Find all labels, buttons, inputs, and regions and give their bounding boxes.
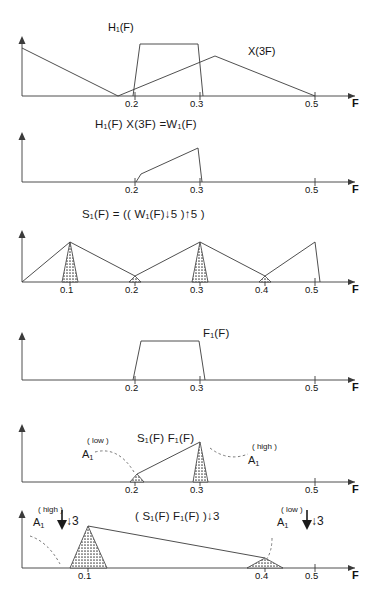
tick-label-0.2: 0.2: [125, 98, 138, 109]
shaded-peak-0.2: [129, 276, 141, 282]
tick-label-0.5: 0.5: [305, 98, 318, 109]
y-axis-arrow: [19, 36, 26, 44]
shaded-peak-high-0.1: [70, 526, 107, 568]
a1-high-sub: 1: [255, 459, 259, 468]
a1-low-down3-sub: 1: [284, 521, 288, 530]
a1-low-sub: 1: [89, 453, 93, 462]
tick-label-0.3: 0.3: [190, 98, 203, 109]
tick-label-0.5: 0.5: [305, 484, 318, 495]
tick-label-0.2: 0.2: [125, 382, 138, 393]
panel-6-s1f1-down3: ( S₁(F) F₁(F) )↓3 ( high )A1 ↓3 ( low )A…: [0, 502, 379, 602]
a1-low-sup: ( low ): [87, 436, 109, 445]
panel-1-h1-x3f: H₁(F) X(3F) 0.2 0.3 0.5 F: [0, 18, 379, 110]
panel-5-s1f1: S₁(F) F₁(F) ( low )A1 ( high )A1 0.2 0.3…: [0, 404, 379, 500]
panel-2-title: H₁(F) X(3F) =W₁(F): [95, 118, 197, 130]
shaded-peak-high-0.3: [193, 442, 208, 482]
leader-low: [266, 538, 272, 560]
leader-high: [210, 448, 248, 457]
tick-label-0.3: 0.3: [190, 284, 203, 295]
x3f-label: X(3F): [248, 45, 276, 57]
panel-2-w1: H₁(F) X(3F) =W₁(F) 0.2 0.3 0.5 F: [0, 116, 379, 198]
axis-label-F: F: [352, 283, 359, 295]
annotation-a1-high: ( high )A1: [248, 454, 260, 468]
panel-3-s1: S₁(F) = (( W₁(F)↓5 )↑5 ) 0.1 0.2 0.3 0.4…: [0, 206, 379, 298]
tick-label-0.1: 0.1: [60, 284, 73, 295]
tick-label-0.3: 0.3: [190, 184, 203, 195]
tick-label-0.2: 0.2: [125, 184, 138, 195]
tick-label-0.3: 0.3: [190, 484, 203, 495]
f1-trapezoid: [133, 341, 205, 380]
tick-label-0.2: 0.2: [125, 284, 138, 295]
panel-4-f1: F₁(F) 0.2 0.3 0.5 F: [0, 308, 379, 396]
a1-high-sup: ( high ): [252, 442, 277, 451]
axis-label-F: F: [352, 483, 359, 495]
tick-label-0.3: 0.3: [190, 382, 203, 393]
a1-high-down3-sup: ( high ): [38, 505, 63, 514]
panel-4-title: F₁(F): [203, 327, 230, 339]
y-axis-arrow: [19, 132, 26, 140]
tick-label-0.5: 0.5: [305, 284, 318, 295]
axis-label-F: F: [352, 381, 359, 393]
y-axis-arrow: [19, 424, 26, 432]
annotation-a1-low: ( low )A1: [82, 448, 94, 462]
shaded-peak-0.4: [259, 276, 271, 282]
tick-label-0.2: 0.2: [125, 484, 138, 495]
tick-label-0.4: 0.4: [255, 570, 268, 581]
y-axis-arrow: [19, 510, 26, 518]
tick-label-0.4: 0.4: [255, 284, 268, 295]
tick-label-0.5: 0.5: [305, 184, 318, 195]
y-axis-arrow: [19, 230, 26, 238]
ramp-line: [137, 442, 200, 474]
shaded-peak-low-0.4: [247, 558, 283, 568]
down3-label-left: ↓3: [66, 514, 79, 528]
panel-6-title: ( S₁(F) F₁(F) )↓3: [135, 510, 220, 522]
panel-3-title: S₁(F) = (( W₁(F)↓5 )↑5 ): [82, 208, 205, 220]
h1-label: H₁(F): [108, 21, 134, 33]
a1-low-down3-sup: ( low ): [281, 505, 303, 514]
axis-label-F: F: [352, 183, 359, 195]
annotation-a1-high-down3: ( high )A1: [33, 516, 45, 530]
y-axis-arrow: [19, 332, 26, 340]
shaded-peak-0.3: [192, 242, 208, 282]
h1-trapezoid: [133, 44, 203, 96]
down3-label-right: ↓3: [311, 514, 324, 528]
tick-label-0.5: 0.5: [305, 570, 318, 581]
tick-label-0.5: 0.5: [305, 382, 318, 393]
panel-1-plot: [0, 18, 379, 110]
shaded-peak-0.1: [62, 242, 78, 282]
leader-high: [30, 536, 60, 564]
tick-label-0.1: 0.1: [78, 570, 91, 581]
shaded-peak-low-0.2: [130, 474, 144, 482]
axis-label-F: F: [352, 569, 359, 581]
ramp-line: [88, 526, 265, 558]
leader-low: [95, 451, 134, 472]
w1-curve: [136, 148, 202, 182]
annotation-a1-low-down3: ( low )A1: [277, 516, 289, 530]
axis-label-F: F: [352, 97, 359, 109]
a1-high-down3-sub: 1: [40, 521, 44, 530]
panel-5-title: S₁(F) F₁(F): [137, 432, 194, 444]
